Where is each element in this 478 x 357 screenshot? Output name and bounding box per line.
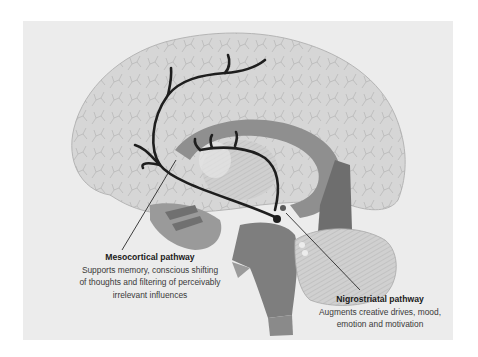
- mesocortical-label: Mesocortical pathway Supports memory, co…: [40, 251, 260, 301]
- substantia-nigra-node: [280, 205, 286, 211]
- nigrostriatal-title: Nigrostriatal pathway: [295, 293, 465, 306]
- nigrostriatal-desc-line2: emotion and motivation: [295, 318, 465, 331]
- mesocortical-desc-line1: Supports memory, conscious shifting: [40, 264, 260, 277]
- nigrostriatal-desc-line1: Augments creative drives, mood,: [295, 306, 465, 319]
- mesocortical-desc-line3: irrelevant influences: [40, 289, 260, 302]
- mesocortical-desc-line2: of thoughts and filtering of perceivably: [40, 276, 260, 289]
- nigrostriatal-label: Nigrostriatal pathway Augments creative …: [295, 293, 465, 331]
- vta-node: [273, 215, 281, 223]
- mesocortical-title: Mesocortical pathway: [40, 251, 260, 264]
